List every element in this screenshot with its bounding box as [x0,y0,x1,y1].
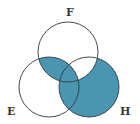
label-h: H [120,105,130,118]
venn-diagram: F E H [0,0,140,124]
label-e: E [7,105,15,118]
label-f: F [66,6,74,19]
